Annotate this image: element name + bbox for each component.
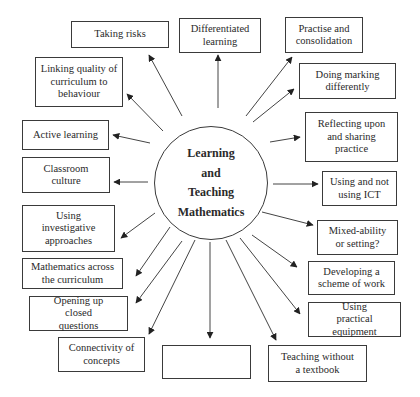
node-maths-across-curriculum: Mathematics across the curriculum [22, 258, 123, 289]
node-connectivity-of-concepts: Connectivity of concepts [58, 337, 145, 372]
node-practical-equipment: Using practical equipment [308, 302, 401, 337]
arrow-teaching-without [226, 240, 276, 340]
node-reflecting-upon: Reflecting upon and sharing practice [305, 112, 398, 162]
arrow-active-learning [113, 135, 150, 143]
arrow-practical-equipment [240, 238, 300, 314]
node-practise-and-consolidation: Practise and consolidation [285, 17, 363, 53]
node-scheme-of-work: Developing a scheme of work [308, 261, 395, 295]
central-topic-line: and [201, 164, 220, 184]
node-mixed-ability: Mixed-ability or setting? [317, 220, 398, 255]
node-using-ict: Using and not using ICT [322, 171, 397, 206]
node-opening-up-questions: Opening up closed questions [29, 296, 128, 331]
node-teaching-without-textbook: Teaching without a textbook [268, 345, 367, 382]
central-topic-line: Teaching [188, 183, 234, 203]
node-differentiated-learning: Differentiated learning [179, 18, 261, 53]
central-topic-line: Mathematics [178, 203, 245, 223]
node-active-learning: Active learning [22, 120, 109, 150]
mind-map-diagram: Learning and Teaching Mathematics Taking… [0, 0, 420, 397]
node-doing-marking-differently: Doing marking differently [299, 63, 396, 99]
arrow-practise [246, 57, 292, 116]
arrow-opening-up [136, 241, 182, 303]
central-topic: Learning and Teaching Mathematics [154, 126, 268, 240]
arrow-maths-across [136, 227, 170, 276]
node-taking-risks: Taking risks [71, 21, 169, 48]
node-empty-box [162, 345, 251, 379]
arrow-linking-quality [127, 94, 163, 131]
arrow-reflecting [270, 137, 300, 142]
central-topic-line: Learning [187, 144, 234, 164]
node-investigative-approaches: Using investigative approaches [22, 205, 115, 252]
node-classroom-culture: Classroom culture [22, 157, 110, 193]
arrow-marking [253, 89, 294, 122]
arrow-taking-risks [149, 55, 182, 116]
node-linking-quality: Linking quality of curriculum to behavio… [35, 57, 123, 107]
arrow-investigative [121, 213, 155, 238]
arrow-mixed-ability [262, 212, 313, 225]
